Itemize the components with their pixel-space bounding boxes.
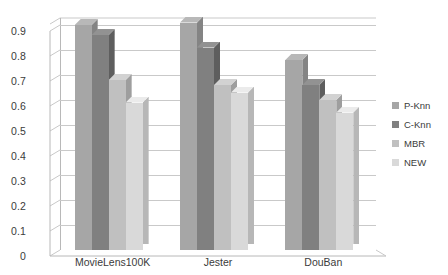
bar <box>302 18 319 250</box>
bar <box>285 18 302 250</box>
legend-item-c-knn[interactable]: C-Knn <box>392 115 448 134</box>
bar <box>231 18 248 250</box>
y-tick-label: 0.3 <box>11 175 26 187</box>
bar-front-face <box>92 35 109 250</box>
legend-item-new[interactable]: NEW <box>392 153 448 172</box>
x-tick-label: MovieLens100K <box>60 256 165 268</box>
legend-item-p-knn[interactable]: P-Knn <box>392 96 448 115</box>
bar-front-face <box>214 85 231 250</box>
y-tick-label: 0.1 <box>11 225 26 237</box>
bar-front-face <box>197 48 214 251</box>
bar-front-face <box>336 113 353 251</box>
bar <box>336 18 353 250</box>
bar <box>197 18 214 250</box>
bar <box>75 18 92 250</box>
bar <box>109 18 126 250</box>
y-tick-label: 0.9 <box>11 25 26 37</box>
y-tick-label: 0.8 <box>11 50 26 62</box>
bar-front-face <box>109 80 126 250</box>
bar <box>92 18 109 250</box>
legend-swatch-icon <box>392 159 399 166</box>
y-tick-label: 0.6 <box>11 100 26 112</box>
bar-side-face <box>248 87 254 245</box>
y-tick-label: 0 <box>20 250 26 262</box>
bar <box>319 18 336 250</box>
legend-swatch-icon <box>392 121 399 128</box>
bars-layer <box>60 18 376 250</box>
legend-label: MBR <box>404 138 425 149</box>
legend-item-mbr[interactable]: MBR <box>392 134 448 153</box>
bar-front-face <box>285 60 302 250</box>
bar-front-face <box>75 25 92 250</box>
bar-front-face <box>231 93 248 251</box>
bar-front-face <box>180 23 197 251</box>
y-axis: 00.10.20.30.40.50.60.70.80.9 <box>0 0 60 275</box>
plot-area <box>60 18 376 250</box>
y-tick-label: 0.7 <box>11 75 26 87</box>
legend-swatch-icon <box>392 102 399 109</box>
bar-side-face <box>143 97 149 245</box>
y-tick-label: 0.4 <box>11 150 26 162</box>
bar-front-face <box>126 103 143 251</box>
legend-swatch-icon <box>392 140 399 147</box>
bar-front-face <box>319 100 336 250</box>
bar <box>126 18 143 250</box>
legend: P-KnnC-KnnMBRNEW <box>392 96 448 172</box>
bar-chart: 00.10.20.30.40.50.60.70.80.9 MovieLens10… <box>0 0 448 275</box>
legend-label: C-Knn <box>404 119 431 130</box>
bar-front-face <box>302 85 319 250</box>
bar-side-face <box>353 107 359 245</box>
bar <box>180 18 197 250</box>
x-tick-label: DouBan <box>271 256 376 268</box>
y-tick-label: 0.5 <box>11 125 26 137</box>
legend-label: P-Knn <box>404 100 430 111</box>
x-tick-label: Jester <box>165 256 270 268</box>
bar <box>214 18 231 250</box>
legend-label: NEW <box>404 157 426 168</box>
y-tick-label: 0.2 <box>11 200 26 212</box>
